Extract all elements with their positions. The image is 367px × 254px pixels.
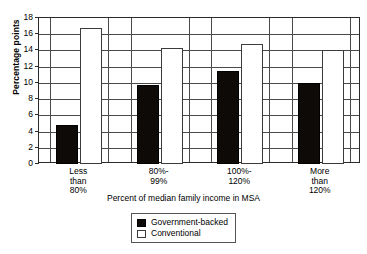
x-axis-tick-label: Morethan120% [280,167,360,196]
vertical-gridline [189,18,190,162]
x-axis-tick-label: Lessthan80% [38,167,118,196]
y-axis-tick-label: 12 [7,62,33,70]
vertical-gridline [292,18,293,162]
bar-government-backed [298,83,320,164]
y-axis-tick-label: 14 [7,45,33,53]
vertical-gridline [108,18,109,162]
legend-item-label: Government-backed [151,218,228,227]
x-axis-tick-label: 100%-120% [199,167,279,186]
vertical-gridline [131,18,132,162]
bar-government-backed [137,85,159,164]
y-axis-tick-label: 4 [7,127,33,135]
y-axis-tick-label: 10 [7,78,33,86]
y-axis-tick-label: 18 [7,13,33,21]
bar-conventional [241,44,263,164]
y-axis-tick-label: 6 [7,110,33,118]
vertical-gridline [350,18,351,162]
y-axis-tick-label: 16 [7,29,33,37]
plot-area [38,17,360,163]
x-axis-tick-label-line: 99% [119,177,199,187]
y-axis-tick-label: 2 [7,143,33,151]
legend-item-label: Conventional [151,229,201,238]
bar-conventional [161,48,183,164]
y-axis-tick-label: 8 [7,94,33,102]
vertical-gridline [269,18,270,162]
legend-swatch-open-white-square [137,230,146,238]
bar-government-backed [56,125,78,164]
legend-item-government-backed: Government-backed [137,217,228,228]
x-axis-tick-label: 80%-99% [119,167,199,186]
x-axis-tick-label-line: 120% [199,177,279,187]
y-axis-tick-mark [35,163,39,164]
legend-item-conventional: Conventional [137,228,228,239]
vertical-gridline [50,18,51,162]
y-axis-tick-label: 0 [7,159,33,167]
legend: Government-backed Conventional [131,213,236,243]
bar-conventional [322,50,344,164]
legend-swatch-filled-black-square [137,219,146,227]
vertical-gridline [211,18,212,162]
bar-government-backed [217,71,239,164]
x-axis-title: Percent of median family income in MSA [0,193,367,203]
bar-conventional [80,28,102,164]
bar-chart: Percentage points 024681012141618 Lessth… [0,0,367,254]
